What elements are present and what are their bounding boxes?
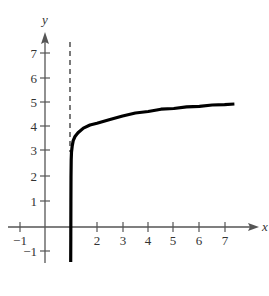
y-tick-label: 4 — [31, 119, 38, 134]
y-tick-label: 5 — [31, 95, 38, 110]
y-tick-label: 3 — [31, 143, 38, 158]
y-tick-label: 1 — [31, 194, 38, 209]
x-tick-label: 2 — [94, 233, 101, 248]
chart-container: −1 2 3 4 5 6 7 x 7 6 5 4 3 2 1 −1 y — [0, 0, 269, 296]
x-tick-label: 7 — [222, 233, 229, 248]
y-tick-label: −1 — [23, 244, 37, 259]
chart-svg: −1 2 3 4 5 6 7 x 7 6 5 4 3 2 1 −1 y — [0, 0, 269, 296]
x-tick-label: 4 — [145, 233, 152, 248]
y-tick-label: 6 — [31, 71, 38, 86]
x-tick-label: 6 — [196, 233, 203, 248]
x-axis: −1 2 3 4 5 6 7 x — [8, 219, 268, 248]
y-axis: 7 6 5 4 3 2 1 −1 y — [23, 12, 50, 263]
y-tick-label: 7 — [31, 46, 38, 61]
x-tick-label: 5 — [170, 233, 177, 248]
x-axis-label: x — [261, 219, 268, 234]
y-axis-label: y — [40, 12, 48, 27]
y-tick-label: 2 — [31, 169, 38, 184]
x-tick-label: 3 — [120, 233, 127, 248]
